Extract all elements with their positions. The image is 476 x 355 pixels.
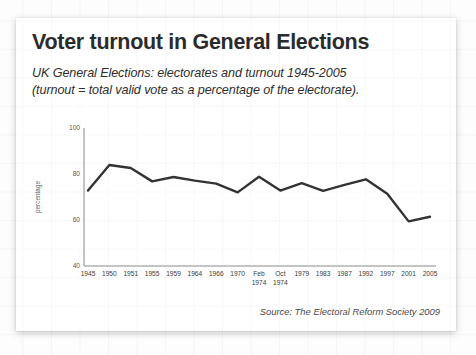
x-tick-label: 1970	[230, 270, 245, 277]
series-line	[88, 165, 430, 221]
y-axis: 406080100	[69, 124, 84, 269]
slide-card: Voter turnout in General Elections UK Ge…	[16, 18, 456, 331]
x-tick-label: 1966	[209, 270, 224, 277]
x-tick-label: 2005	[423, 270, 438, 277]
x-tick-label: 1964	[188, 270, 203, 277]
x-tick-label: 1979	[294, 270, 309, 277]
x-tick-label: 1997	[380, 270, 395, 277]
x-tick-label: 2001	[401, 270, 416, 277]
y-tick-label: 60	[73, 216, 81, 223]
x-axis: 19451950195119551959196419661970Feb1974O…	[81, 266, 438, 286]
x-tick-label: 1951	[123, 270, 138, 277]
x-tick-label: 1974	[252, 279, 267, 286]
x-tick-label: 1945	[81, 270, 96, 277]
page-title: Voter turnout in General Elections	[32, 30, 369, 55]
y-tick-label: 40	[73, 262, 81, 269]
y-axis-title: percentage	[34, 181, 42, 213]
slide-subtitle: UK General Elections: electorates and tu…	[32, 65, 359, 99]
series-group	[88, 165, 430, 221]
x-tick-label: 1955	[145, 270, 160, 277]
x-tick-label: 1950	[102, 270, 117, 277]
chart-svg: 406080100 194519501951195519591964196619…	[30, 118, 442, 293]
turnout-line-chart: 406080100 194519501951195519591964196619…	[30, 118, 442, 293]
source-caption: Source: The Electoral Reform Society 200…	[260, 306, 440, 317]
subtitle-line-2: (turnout = total valid vote as a percent…	[32, 82, 359, 99]
x-tick-label: 1987	[337, 270, 352, 277]
x-tick-label: 1959	[166, 270, 181, 277]
x-tick-label: Feb	[253, 270, 265, 277]
slide-canvas: Voter turnout in General Elections UK Ge…	[0, 0, 476, 355]
x-tick-label: 1974	[273, 279, 288, 286]
subtitle-line-1: UK General Elections: electorates and tu…	[32, 65, 359, 82]
x-tick-label: 1983	[316, 270, 331, 277]
x-tick-label: Oct	[275, 270, 285, 277]
x-tick-label: 1992	[359, 270, 374, 277]
y-tick-label: 80	[73, 170, 81, 177]
y-tick-label: 100	[69, 124, 80, 131]
